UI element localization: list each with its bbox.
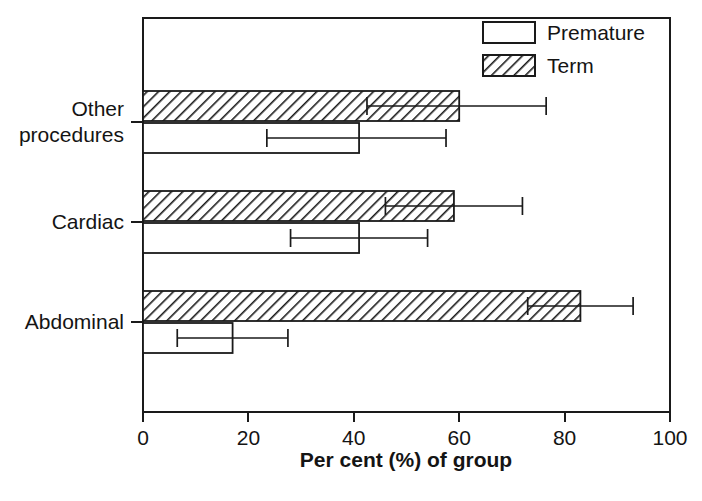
x-tick-label-80: 80 (553, 426, 576, 449)
chart-legend: PrematureTerm (483, 21, 645, 77)
chart-container: 020406080100 OtherproceduresCardiacAbdom… (0, 0, 702, 501)
x-axis-title: Per cent (%) of group (300, 448, 512, 471)
y-axis-category-labels: OtherproceduresCardiacAbdominal (19, 97, 124, 333)
x-tick-label-20: 20 (237, 426, 260, 449)
x-tick-label-0: 0 (137, 426, 149, 449)
legend-label-term: Term (547, 54, 594, 77)
x-tick-label-60: 60 (448, 426, 471, 449)
x-axis-tick-labels: 020406080100 (137, 426, 687, 449)
y-axis-label-other-procedures: Otherprocedures (19, 97, 124, 146)
legend-swatch-term (483, 55, 535, 76)
y-axis-label-abdominal: Abdominal (25, 310, 124, 333)
x-tick-label-100: 100 (652, 426, 687, 449)
bar-term-abdominal (143, 291, 580, 321)
legend-swatch-premature (483, 22, 535, 43)
bar-chart: 020406080100 OtherproceduresCardiacAbdom… (0, 0, 702, 501)
legend-label-premature: Premature (547, 21, 645, 44)
x-tick-label-40: 40 (342, 426, 365, 449)
y-axis-label-cardiac: Cardiac (52, 210, 124, 233)
x-axis-ticks (143, 412, 670, 422)
bars-layer (143, 91, 580, 353)
y-axis-ticks (131, 122, 143, 322)
